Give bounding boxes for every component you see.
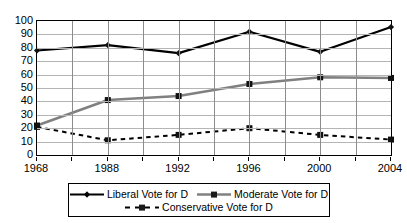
x-axis-tick-mark	[284, 157, 285, 161]
legend-row-2: Conservative Vote for D	[125, 201, 273, 213]
gridline-vertical	[143, 21, 144, 155]
x-axis-tick-mark	[355, 157, 356, 161]
x-axis-tick-mark	[107, 157, 108, 161]
legend-item-conservative: Conservative Vote for D	[125, 201, 273, 213]
x-axis-tick-mark	[71, 157, 72, 161]
gridline-vertical	[179, 21, 180, 155]
legend-label-liberal: Liberal Vote for D	[107, 188, 188, 200]
gridline-vertical	[108, 21, 109, 155]
x-axis-tick-mark	[248, 157, 249, 161]
x-axis-tick-mark	[178, 157, 179, 161]
gridline-vertical	[249, 21, 250, 155]
y-axis-tick-label: 40	[3, 95, 33, 106]
chart-legend: Liberal Vote for D Moderate Vote for D	[68, 183, 330, 217]
x-axis-tick-mark	[36, 157, 37, 161]
y-axis-tick-label: 80	[3, 41, 33, 52]
plot-area	[36, 20, 392, 156]
y-axis-tick-label: 10	[3, 135, 33, 146]
legend-label-conservative: Conservative Vote for D	[162, 201, 273, 213]
legend-label-moderate: Moderate Vote for D	[234, 188, 328, 200]
x-axis-tick-mark	[319, 157, 320, 161]
x-axis-tick-label: 2000	[296, 162, 342, 174]
x-axis-tick-label: 1968	[13, 162, 59, 174]
moderate-line-key-icon	[197, 189, 231, 200]
conservative-line-key-icon	[125, 202, 159, 213]
legend-item-moderate: Moderate Vote for D	[197, 188, 328, 200]
gridline-vertical	[285, 21, 286, 155]
x-axis-tick-mark	[390, 157, 391, 161]
x-axis-tick-label: 1992	[155, 162, 201, 174]
y-axis-tick-label: 60	[3, 68, 33, 79]
y-axis-tick-label: 50	[3, 82, 33, 93]
y-axis-tick-label: 100	[3, 15, 33, 26]
y-axis-tick-label: 20	[3, 122, 33, 133]
y-axis-tick-label: 90	[3, 28, 33, 39]
x-axis-tick-label: 2004	[367, 162, 407, 174]
y-axis-tick-label: 70	[3, 55, 33, 66]
data-point-marker	[388, 24, 394, 30]
legend-row-1: Liberal Vote for D Moderate Vote for D	[70, 188, 328, 200]
y-axis: 1009080706050403020100	[0, 20, 33, 156]
x-axis: 196819881992199620002004	[36, 157, 392, 177]
y-axis-tick-label: 30	[3, 108, 33, 119]
x-axis-tick-label: 1988	[84, 162, 130, 174]
legend-item-liberal: Liberal Vote for D	[70, 188, 188, 200]
x-axis-tick-mark	[213, 157, 214, 161]
data-point-marker	[388, 75, 394, 81]
gridline-vertical	[72, 21, 73, 155]
y-axis-tick-label: 0	[3, 149, 33, 160]
x-axis-tick-label: 1996	[225, 162, 271, 174]
liberal-line-key-icon	[70, 189, 104, 200]
gridline-vertical	[356, 21, 357, 155]
x-axis-tick-mark	[142, 157, 143, 161]
gridline-vertical	[320, 21, 321, 155]
gridline-vertical	[214, 21, 215, 155]
